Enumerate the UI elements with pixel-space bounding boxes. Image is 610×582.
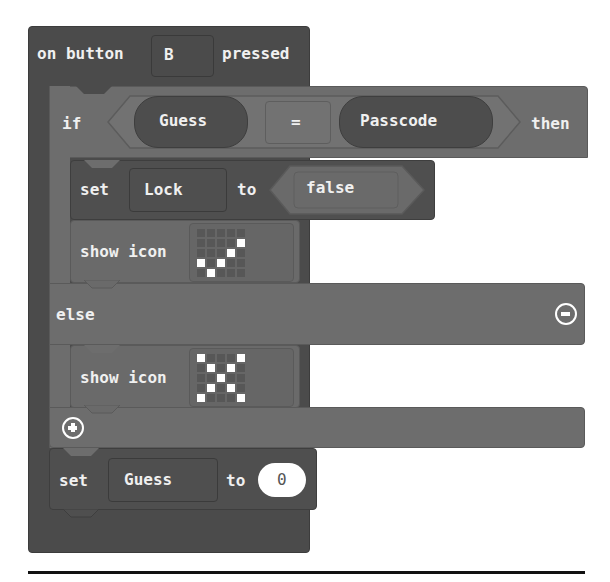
connector-notch <box>84 405 124 415</box>
led-cell <box>207 354 215 362</box>
led-cell <box>207 364 215 372</box>
led-grid-cross-icon <box>197 354 245 402</box>
led-cell <box>227 364 235 372</box>
connector-notch <box>84 345 124 355</box>
event-prefix-label: on button <box>37 44 124 64</box>
boolean-value: false <box>306 178 354 198</box>
variable-lock-dropdown[interactable]: Lock <box>129 168 227 212</box>
led-cell <box>217 249 225 257</box>
led-cell <box>237 394 245 402</box>
led-cell <box>207 229 215 237</box>
led-cell <box>207 394 215 402</box>
connector-notch <box>63 448 103 458</box>
led-cell <box>207 384 215 392</box>
connector-notch <box>63 509 103 519</box>
led-cell <box>197 394 205 402</box>
to-label: to <box>226 471 245 491</box>
else-row[interactable] <box>49 283 585 345</box>
led-cell <box>227 354 235 362</box>
led-cell <box>207 269 215 277</box>
led-cell <box>237 259 245 267</box>
led-cell <box>197 269 205 277</box>
led-cell <box>197 374 205 382</box>
led-cell <box>237 239 245 247</box>
number-value: 0 <box>277 470 287 490</box>
connector-notch <box>84 160 124 170</box>
operator-label: = <box>291 112 301 132</box>
led-cell <box>237 269 245 277</box>
variable-guess-dropdown[interactable]: Guess <box>108 458 218 502</box>
number-input[interactable]: 0 <box>258 463 306 497</box>
variable-lock-label: Lock <box>144 180 183 200</box>
set-label: set <box>80 180 109 200</box>
button-dropdown[interactable]: B <box>151 35 214 77</box>
led-cell <box>237 374 245 382</box>
led-cell <box>217 239 225 247</box>
led-cell <box>227 269 235 277</box>
led-cell <box>217 354 225 362</box>
led-cell <box>207 249 215 257</box>
led-cell <box>197 249 205 257</box>
event-suffix-label: pressed <box>222 44 289 64</box>
then-label: then <box>531 114 570 134</box>
led-cell <box>197 239 205 247</box>
led-cell <box>217 374 225 382</box>
show-icon-label: show icon <box>80 242 167 262</box>
led-cell <box>197 229 205 237</box>
led-cell <box>227 259 235 267</box>
led-cell <box>197 384 205 392</box>
led-grid-checkmark-icon <box>197 229 245 277</box>
if-block-arm <box>49 86 70 448</box>
plus-circle-icon[interactable] <box>62 417 84 439</box>
if-label: if <box>62 114 81 134</box>
led-cell <box>207 239 215 247</box>
show-icon-label: show icon <box>80 368 167 388</box>
led-cell <box>217 229 225 237</box>
led-cell <box>197 364 205 372</box>
to-label: to <box>237 180 256 200</box>
led-cell <box>237 354 245 362</box>
led-cell <box>237 364 245 372</box>
variable-guess-label: Guess <box>124 470 172 490</box>
if-block-footer <box>49 407 585 448</box>
led-cell <box>197 259 205 267</box>
led-cell <box>227 249 235 257</box>
led-cell <box>227 239 235 247</box>
led-cell <box>227 374 235 382</box>
divider-line <box>28 571 585 574</box>
led-cell <box>217 259 225 267</box>
led-cell <box>217 364 225 372</box>
led-cell <box>217 384 225 392</box>
led-cell <box>197 354 205 362</box>
icon-picker-yes[interactable] <box>189 223 294 282</box>
led-cell <box>237 384 245 392</box>
minus-circle-icon[interactable] <box>555 303 577 325</box>
condition-right-label: Passcode <box>360 111 437 131</box>
led-cell <box>227 394 235 402</box>
variable-guess-pill[interactable]: Guess <box>134 96 248 148</box>
led-cell <box>237 249 245 257</box>
else-label: else <box>56 305 95 325</box>
variable-passcode-pill[interactable]: Passcode <box>339 96 493 148</box>
led-cell <box>217 394 225 402</box>
operator-dropdown[interactable]: = <box>265 101 331 144</box>
led-cell <box>207 374 215 382</box>
condition-left-label: Guess <box>159 111 207 131</box>
led-cell <box>207 259 215 267</box>
connector-notch <box>84 280 124 290</box>
icon-picker-no[interactable] <box>189 348 294 407</box>
set-label: set <box>59 471 88 491</box>
led-cell <box>237 229 245 237</box>
led-cell <box>227 229 235 237</box>
led-cell <box>217 269 225 277</box>
button-value: B <box>164 45 174 65</box>
led-cell <box>227 384 235 392</box>
